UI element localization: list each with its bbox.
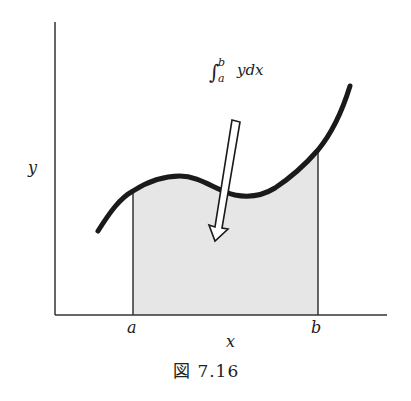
x-axis-label: x	[226, 332, 235, 351]
integral-area-diagram	[0, 0, 411, 401]
marker-b-label: b	[311, 318, 321, 337]
integral-lower-limit: a	[218, 72, 225, 85]
integrand: ydx	[237, 61, 264, 79]
integral-upper-limit: b	[218, 56, 225, 69]
y-axis-label: y	[28, 158, 37, 177]
figure-caption: 図 7.16	[173, 357, 239, 382]
marker-a-label: a	[127, 318, 137, 337]
